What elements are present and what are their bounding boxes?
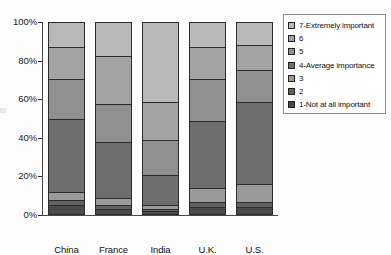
bar-stack — [236, 22, 273, 215]
bar-segment[interactable] — [96, 210, 131, 214]
legend-item-label: 6 — [299, 34, 303, 43]
bar-group[interactable] — [236, 22, 273, 215]
bar-stack — [142, 22, 179, 215]
y-axis-tick-label: 80% — [18, 56, 37, 66]
bar-segment[interactable] — [190, 23, 225, 48]
bar-group[interactable] — [48, 22, 85, 215]
x-axis-category-label: France — [90, 244, 137, 255]
bar-segment[interactable] — [49, 206, 84, 214]
y-axis-tick-label: 60% — [18, 94, 37, 104]
bar-group[interactable] — [95, 22, 132, 215]
bar-group[interactable] — [189, 22, 226, 215]
bar-segment[interactable] — [96, 105, 131, 143]
bar-segment[interactable] — [96, 199, 131, 207]
bar-segment[interactable] — [49, 193, 84, 201]
bar-segment[interactable] — [49, 48, 84, 80]
bar-segment[interactable] — [190, 208, 225, 214]
bar-segment[interactable] — [96, 57, 131, 105]
legend-item[interactable]: 4-Average importance — [288, 59, 382, 72]
legend-item-label: 4-Average importance — [299, 61, 375, 70]
legend-item[interactable]: 7-Extremely important — [288, 19, 382, 32]
x-axis-category-label: U.K. — [184, 244, 231, 255]
bar-segment[interactable] — [237, 185, 272, 202]
legend-item-label: 1-Not at all important — [299, 100, 370, 109]
bar-stack — [48, 22, 85, 215]
legend-swatch-icon — [288, 75, 295, 82]
legend-item[interactable]: 5 — [288, 45, 382, 58]
legend-item[interactable]: 3 — [288, 72, 382, 85]
legend-swatch-icon — [288, 62, 295, 69]
bar-segment[interactable] — [190, 189, 225, 202]
x-axis-category-label: China — [43, 244, 90, 255]
legend-swatch-icon — [288, 22, 295, 29]
legend-item-label: 3 — [299, 74, 303, 83]
legend-item-label: 7-Extremely important — [299, 21, 374, 30]
legend-item[interactable]: 1-Not at all important — [288, 98, 382, 111]
bar-segment[interactable] — [96, 23, 131, 57]
bar-segment[interactable] — [237, 208, 272, 214]
bar-segment[interactable] — [49, 80, 84, 120]
y-axis-tick-label: 100% — [13, 17, 37, 27]
bar-segment[interactable] — [143, 23, 178, 103]
stacked-bar-chart: 0%20%40%60%80%100% ChinaFranceIndiaU.K.U… — [0, 0, 391, 255]
y-axis-tick-label: 0% — [23, 210, 37, 220]
bar-segment[interactable] — [237, 23, 272, 46]
bar-stack — [95, 22, 132, 215]
bar-segment[interactable] — [143, 103, 178, 141]
bar-segment[interactable] — [237, 46, 272, 71]
legend-item-label: 2 — [299, 87, 303, 96]
x-axis-category-label: U.S. — [231, 244, 278, 255]
bar-stack — [189, 22, 226, 215]
legend-item[interactable]: 6 — [288, 32, 382, 45]
bar-segment[interactable] — [190, 122, 225, 189]
x-axis-category-label: India — [137, 244, 184, 255]
bar-group[interactable] — [142, 22, 179, 215]
bar-segment[interactable] — [143, 141, 178, 175]
legend-item[interactable]: 2 — [288, 85, 382, 98]
legend-swatch-icon — [288, 35, 295, 42]
bar-segment[interactable] — [237, 71, 272, 103]
legend-swatch-icon — [288, 48, 295, 55]
y-axis-tick-label: 20% — [18, 171, 37, 181]
y-axis: 0%20%40%60%80%100% — [0, 0, 40, 255]
y-axis-tick-label: 40% — [18, 133, 37, 143]
bar-segment[interactable] — [96, 143, 131, 198]
legend: 7-Extremely important654-Average importa… — [283, 14, 386, 114]
bar-segment[interactable] — [49, 23, 84, 48]
bar-segment[interactable] — [237, 103, 272, 185]
legend-swatch-icon — [288, 88, 295, 95]
bar-segment[interactable] — [49, 120, 84, 193]
bar-segment[interactable] — [143, 176, 178, 207]
legend-item-label: 5 — [299, 47, 303, 56]
bar-segment[interactable] — [143, 212, 178, 214]
bar-segment[interactable] — [190, 48, 225, 80]
plot-area: ChinaFranceIndiaU.K.U.S. — [42, 22, 278, 216]
legend-swatch-icon — [288, 101, 295, 108]
bar-segment[interactable] — [190, 80, 225, 122]
